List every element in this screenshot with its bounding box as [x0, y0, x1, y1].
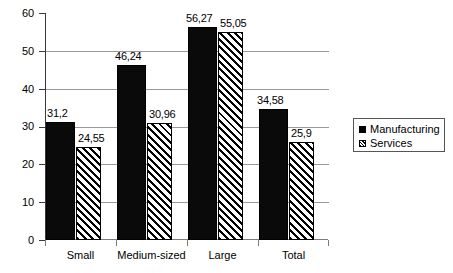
bar-label-manufacturing-small: 31,2: [47, 108, 68, 119]
bar-services-medium-sized[interactable]: [147, 123, 172, 240]
y-tick-label: 30: [4, 121, 34, 132]
x-tick-label-small: Small: [45, 249, 116, 261]
x-tick-label-medium-sized: Medium-sized: [116, 249, 187, 261]
legend-item-services[interactable]: Services: [359, 136, 444, 150]
legend-label-manufacturing: Manufacturing: [370, 123, 440, 135]
solid-square-icon: [359, 126, 366, 133]
bar-label-manufacturing-total: 34,58: [257, 95, 284, 106]
y-tick-label: 40: [4, 84, 34, 95]
bar-manufacturing-medium-sized[interactable]: [117, 65, 146, 240]
y-tick-label: 50: [4, 46, 34, 57]
bar-label-manufacturing-large: 56,27: [186, 13, 213, 24]
x-tick-mark: [328, 240, 329, 246]
bar-label-services-total: 25,9: [291, 128, 312, 139]
bar-label-services-large: 55,05: [220, 18, 247, 29]
legend-item-manufacturing[interactable]: Manufacturing: [359, 122, 444, 136]
bar-manufacturing-small[interactable]: [46, 122, 75, 240]
hatched-square-icon: [359, 140, 366, 147]
legend-label-services: Services: [370, 137, 412, 149]
bar-label-manufacturing-medium-sized: 46,24: [115, 51, 142, 62]
x-tick-mark: [116, 240, 117, 246]
bar-manufacturing-total[interactable]: [259, 109, 288, 240]
x-tick-mark: [45, 240, 46, 246]
legend: Manufacturing Services: [353, 118, 445, 152]
x-tick-label-large: Large: [187, 249, 258, 261]
bar-services-large[interactable]: [218, 32, 243, 240]
y-tick-label: 60: [4, 8, 34, 19]
bar-manufacturing-large[interactable]: [188, 27, 217, 240]
y-tick-label: 10: [4, 197, 34, 208]
x-tick-mark: [187, 240, 188, 246]
bar-label-services-small: 24,55: [78, 133, 105, 144]
bar-label-services-medium-sized: 30,96: [149, 109, 176, 120]
bar-services-small[interactable]: [76, 147, 101, 240]
y-tick-label: 0: [4, 235, 34, 246]
x-tick-mark: [258, 240, 259, 246]
x-tick-label-total: Total: [258, 249, 329, 261]
bar-services-total[interactable]: [289, 142, 314, 240]
bar-chart: 60 50 40 30 20 10 0 31,2 24,55 46,24 30,: [0, 0, 453, 273]
y-tick-label: 20: [4, 159, 34, 170]
